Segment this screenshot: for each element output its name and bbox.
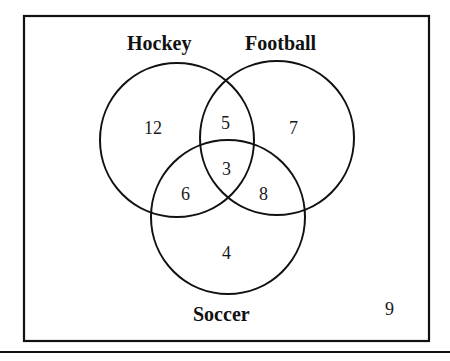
count-football-soccer: 8 xyxy=(259,184,268,204)
football-circle xyxy=(200,61,354,215)
count-soccer-only: 4 xyxy=(222,243,231,263)
venn-diagram: Hockey Football Soccer 12 5 7 3 6 8 4 9 xyxy=(0,0,450,361)
count-hockey-football: 5 xyxy=(221,113,230,133)
football-label: Football xyxy=(245,32,317,54)
count-hockey-only: 12 xyxy=(144,118,162,138)
count-hockey-soccer: 6 xyxy=(181,184,190,204)
count-football-only: 7 xyxy=(289,118,298,138)
count-outside: 9 xyxy=(385,299,394,319)
count-all-three: 3 xyxy=(222,159,231,179)
hockey-label: Hockey xyxy=(127,32,191,55)
soccer-label: Soccer xyxy=(193,303,250,325)
